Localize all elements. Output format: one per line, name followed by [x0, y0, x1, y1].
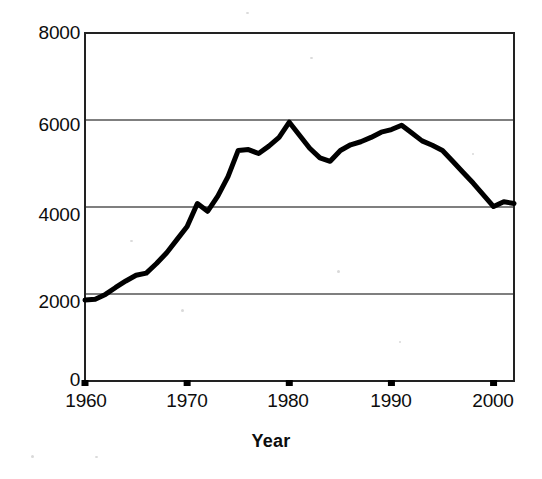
plot-area [0, 0, 542, 479]
scan-speck [181, 309, 184, 312]
scan-speck [472, 153, 474, 155]
gridlines [85, 33, 514, 294]
scan-speck [337, 270, 340, 273]
scan-speck [31, 455, 34, 458]
line-chart-figure: 8000 6000 4000 2000 0 1960 1970 1980 199… [0, 0, 542, 479]
x-tick-mark [184, 380, 191, 386]
scan-speck [310, 57, 313, 59]
scan-speck [246, 12, 249, 14]
x-tick-mark [388, 380, 395, 386]
scan-speck [130, 240, 133, 242]
scan-speck [399, 341, 401, 343]
x-tick-mark [490, 380, 497, 386]
scan-speck [95, 456, 98, 458]
data-series-line [85, 122, 514, 300]
x-tick-mark [286, 380, 293, 386]
x-tick-mark [82, 380, 89, 386]
